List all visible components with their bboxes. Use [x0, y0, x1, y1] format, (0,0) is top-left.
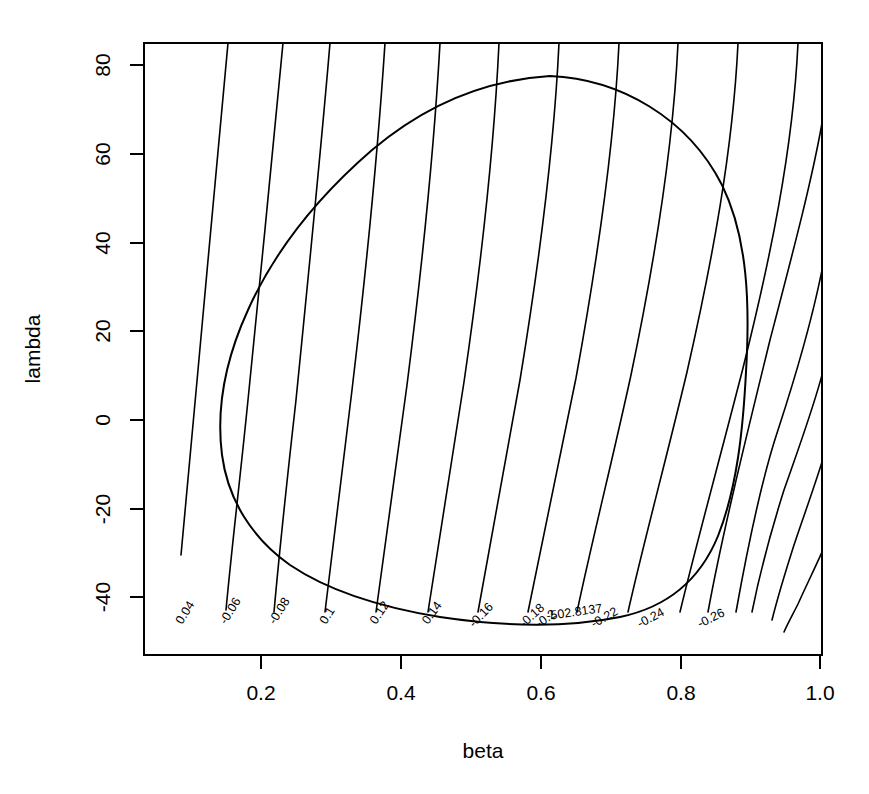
y-tick-label-4: 20	[91, 319, 114, 342]
contour-line-8	[528, 43, 619, 612]
contour-line-15	[772, 462, 822, 620]
x-tick-label-4: 0.8	[666, 681, 695, 704]
x-axis-ticks	[261, 655, 820, 669]
contour-label-12: -0.24	[635, 605, 667, 631]
contour-line-7	[478, 43, 559, 612]
contour-line-1	[181, 43, 228, 555]
y-axis-title: lambda	[21, 314, 44, 383]
y-tick-label-1: 80	[91, 53, 114, 76]
contour-label-2: -0.06	[217, 595, 244, 627]
x-tick-label-1: 0.2	[246, 681, 275, 704]
contour-line-11	[680, 43, 798, 612]
contour-line-6	[428, 43, 499, 612]
x-tick-label-5: 1.0	[805, 681, 834, 704]
x-tick-labels: 0.2 0.4 0.6 0.8 1.0	[246, 681, 834, 704]
contour-line-4	[325, 43, 385, 612]
x-axis-title: beta	[463, 739, 504, 762]
contour-label-4: 0.1	[317, 604, 338, 626]
contour-level-labels: 0.04 -0.06 -0.08 0.1 0.12 0.14 -0.16 -0.…	[173, 595, 727, 631]
y-tick-labels: 80 60 40 20 0 -20 -40	[91, 53, 114, 612]
y-tick-label-5: 0	[91, 414, 114, 426]
contour-line-9	[577, 43, 678, 612]
y-tick-label-6: -20	[91, 494, 114, 524]
contour-line-12	[708, 123, 822, 612]
contour-plot-figure: 0.2 0.4 0.6 0.8 1.0 80 60 40 20 0 -20 -4…	[0, 0, 869, 794]
contour-line-5	[376, 43, 440, 612]
x-tick-label-2: 0.4	[386, 681, 416, 704]
contour-label-3: -0.08	[266, 595, 293, 627]
plot-canvas: 0.2 0.4 0.6 0.8 1.0 80 60 40 20 0 -20 -4…	[0, 0, 869, 794]
contour-label-1: 0.04	[173, 598, 198, 626]
y-tick-label-3: 40	[91, 231, 114, 254]
contour-line-3	[274, 43, 330, 612]
contour-label-6: 0.14	[419, 599, 445, 627]
contour-label-13: -0.26	[695, 606, 727, 631]
plot-frame-box	[144, 43, 822, 655]
contour-line-13	[736, 270, 822, 612]
y-tick-label-7: -40	[91, 582, 114, 612]
y-axis-ticks	[130, 65, 144, 597]
x-tick-label-3: 0.6	[526, 681, 555, 704]
contour-label-5: 0.12	[367, 599, 392, 627]
y-tick-label-2: 60	[91, 142, 114, 165]
contour-lines-group	[181, 43, 822, 632]
contour-line-2	[226, 43, 283, 610]
contour-line-16	[784, 552, 822, 632]
contour-label-7: -0.16	[466, 600, 496, 630]
